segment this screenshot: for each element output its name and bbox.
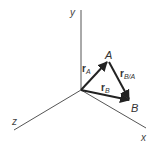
z-axis: [14, 90, 81, 130]
vector-r-b-a-label: rB/A: [120, 68, 136, 80]
point-a-label: A: [104, 49, 112, 61]
vector-diagram: y z x A B rA rB/A rB: [0, 0, 155, 149]
vector-r-b-subscript: B: [105, 87, 110, 94]
point-b-label: B: [131, 102, 138, 114]
y-axis-label: y: [69, 7, 76, 18]
vector-r-a-label: rA: [82, 63, 91, 75]
vector-r-b-a-subscript: B/A: [124, 73, 136, 80]
z-axis-label: z: [11, 116, 17, 127]
x-axis-label: x: [140, 132, 147, 143]
vector-r-b-a: [109, 62, 129, 99]
vector-r-a-subscript: A: [85, 68, 91, 75]
vector-r-b-label: rB: [101, 82, 110, 94]
